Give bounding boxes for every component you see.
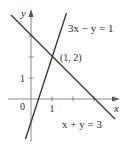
y-axis-arrow-icon xyxy=(29,9,34,17)
y-axis-label: y xyxy=(20,7,26,19)
line-3x-minus-y-equals-1 xyxy=(26,13,67,139)
intersection-label: (1, 2) xyxy=(60,52,82,64)
equation-label-1: 3x − y = 1 xyxy=(68,22,113,34)
graph: y x 0 1 1 3x − y = 1 (1, 2) x + y = 3 xyxy=(0,0,127,148)
origin-label: 0 xyxy=(20,101,25,112)
x-tick-label-1: 1 xyxy=(50,103,55,114)
equation-label-2: x + y = 3 xyxy=(62,118,102,130)
x-axis-arrow-icon xyxy=(112,97,120,102)
x-axis-label: x xyxy=(113,102,119,114)
y-tick-label-1: 1 xyxy=(20,73,25,84)
